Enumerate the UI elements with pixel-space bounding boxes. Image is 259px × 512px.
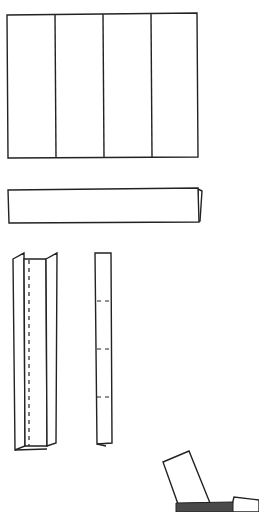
step-2-folded-strip: [8, 188, 202, 223]
shaded-base: [176, 502, 233, 512]
step-4-marked-strip: [95, 253, 112, 446]
step-3-flapped-strip: [13, 253, 57, 450]
origami-diagram: [0, 0, 259, 512]
step-5-assembled-piece: [163, 451, 259, 512]
step-1-four-panel-sheet: [7, 13, 198, 158]
